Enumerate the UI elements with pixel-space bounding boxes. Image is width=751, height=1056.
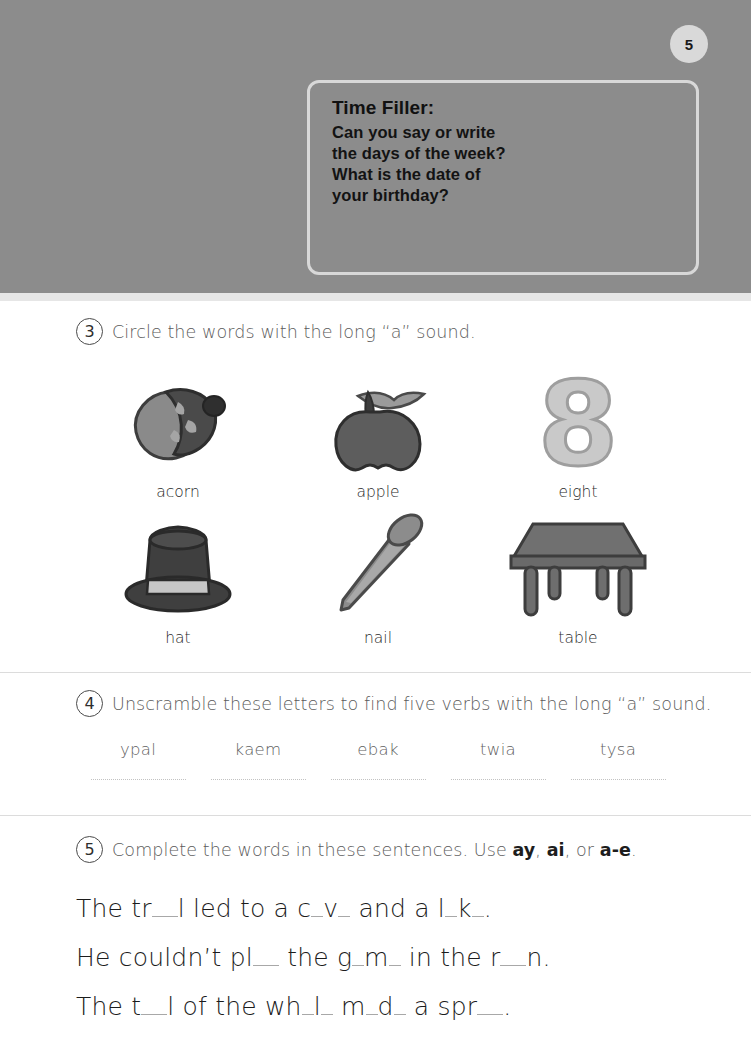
scramble-item-1: ypal bbox=[78, 740, 198, 780]
acorn-art bbox=[78, 355, 278, 476]
scramble-word-1: ypal bbox=[78, 740, 198, 759]
worksheet-page: 5 Time Filler: Can you say or write the … bbox=[0, 0, 751, 1056]
scramble-words-row: ypal kaem ebak twia tysa bbox=[78, 740, 678, 780]
sentence-1-blank-1[interactable] bbox=[152, 916, 178, 917]
section-divider-1 bbox=[0, 672, 751, 673]
sentence-3-part-7: . bbox=[503, 992, 511, 1021]
sentence-3-blank-5[interactable] bbox=[394, 1014, 406, 1015]
section-divider-2 bbox=[0, 815, 751, 816]
scramble-word-3: ebak bbox=[318, 740, 438, 759]
picture-item-eight[interactable]: 8 eight bbox=[478, 355, 678, 501]
number-eight-icon: 8 bbox=[528, 368, 628, 476]
scramble-word-4: twia bbox=[438, 740, 558, 759]
picture-label-nail: nail bbox=[364, 629, 392, 647]
sentence-1-part-5: k bbox=[457, 894, 472, 923]
sentence-2-part-2: the g bbox=[279, 943, 352, 972]
question-4-section: 4 Unscramble these letters to find five … bbox=[0, 690, 751, 717]
sentence-1[interactable]: The trl led to a cv and a lk. bbox=[76, 884, 736, 933]
picture-label-table: table bbox=[558, 629, 597, 647]
sentence-3-blank-2[interactable] bbox=[302, 1014, 314, 1015]
answer-line-5[interactable] bbox=[571, 779, 666, 780]
sentence-2[interactable]: He couldn’t pl the gm in the rn. bbox=[76, 933, 736, 982]
scramble-item-4: twia bbox=[438, 740, 558, 780]
sentence-3[interactable]: The tl of the whl md a spr. bbox=[76, 982, 736, 1031]
table-art bbox=[478, 501, 678, 622]
sentence-1-blank-3[interactable] bbox=[338, 916, 350, 917]
sentence-1-part-1: The tr bbox=[76, 894, 152, 923]
sentence-3-blank-3[interactable] bbox=[321, 1014, 333, 1015]
question-3-section: 3 Circle the words with the long “a” sou… bbox=[0, 318, 751, 345]
sentence-3-part-5: d bbox=[378, 992, 394, 1021]
page-number-badge: 5 bbox=[670, 25, 708, 63]
question-3-number: 3 bbox=[76, 318, 103, 345]
question-5-instruction: Complete the words in these sentences. U… bbox=[112, 840, 637, 860]
apple-art bbox=[278, 355, 478, 476]
answer-line-3[interactable] bbox=[331, 779, 426, 780]
sentence-3-blank-4[interactable] bbox=[366, 1014, 378, 1015]
sentence-3-part-1: The t bbox=[76, 992, 141, 1021]
picture-item-apple[interactable]: apple bbox=[278, 355, 478, 501]
sentence-2-blank-4[interactable] bbox=[500, 965, 526, 966]
table-icon bbox=[503, 510, 653, 622]
sentence-3-part-3: l bbox=[314, 992, 321, 1021]
picture-label-apple: apple bbox=[356, 483, 399, 501]
sentence-2-blank-1[interactable] bbox=[253, 965, 279, 966]
header-band: 5 Time Filler: Can you say or write the … bbox=[0, 0, 751, 293]
question-5-section: 5 Complete the words in these sentences.… bbox=[0, 836, 751, 863]
picture-grid: acorn apple 8 eight bbox=[78, 355, 678, 647]
scramble-item-3: ebak bbox=[318, 740, 438, 780]
sentence-1-part-6: . bbox=[484, 894, 492, 923]
sentence-2-part-1: He couldn’t pl bbox=[76, 943, 253, 972]
answer-line-2[interactable] bbox=[211, 779, 306, 780]
sentence-3-blank-1[interactable] bbox=[141, 1014, 167, 1015]
sentence-1-part-2: l led to a c bbox=[178, 894, 312, 923]
question-4-number: 4 bbox=[76, 690, 103, 717]
apple-icon bbox=[322, 372, 434, 476]
picture-item-table[interactable]: table bbox=[478, 501, 678, 647]
q5-separator-2: , or bbox=[565, 840, 600, 860]
picture-item-nail[interactable]: nail bbox=[278, 501, 478, 647]
picture-row-1: acorn apple 8 eight bbox=[78, 355, 678, 501]
scramble-word-2: kaem bbox=[198, 740, 318, 759]
time-filler-title: Time Filler: bbox=[332, 97, 696, 119]
sentence-3-part-2: l of the wh bbox=[167, 992, 301, 1021]
nail-icon bbox=[323, 510, 433, 622]
sentence-1-part-3: v bbox=[323, 894, 338, 923]
svg-text:8: 8 bbox=[538, 368, 619, 476]
sentence-3-part-6: a spr bbox=[406, 992, 478, 1021]
nail-art bbox=[278, 501, 478, 622]
picture-label-eight: eight bbox=[558, 483, 597, 501]
time-filler-line-2: the days of the week? bbox=[332, 143, 696, 164]
question-3-instruction: Circle the words with the long “a” sound… bbox=[112, 322, 476, 342]
sentence-2-blank-2[interactable] bbox=[352, 965, 364, 966]
q5-option-ay: ay bbox=[512, 840, 535, 860]
sentence-2-part-4: in the r bbox=[401, 943, 501, 972]
sentence-3-blank-6[interactable] bbox=[477, 1014, 503, 1015]
scramble-item-2: kaem bbox=[198, 740, 318, 780]
sentence-2-blank-3[interactable] bbox=[389, 965, 401, 966]
question-4-instruction: Unscramble these letters to find five ve… bbox=[112, 694, 711, 714]
scramble-word-5: tysa bbox=[558, 740, 678, 759]
time-filler-box: Time Filler: Can you say or write the da… bbox=[307, 80, 699, 275]
sentence-1-blank-2[interactable] bbox=[311, 916, 323, 917]
time-filler-line-3: What is the date of bbox=[332, 164, 696, 185]
answer-line-1[interactable] bbox=[91, 779, 186, 780]
picture-item-hat[interactable]: hat bbox=[78, 501, 278, 647]
time-filler-line-4: your birthday? bbox=[332, 185, 696, 206]
hat-art bbox=[78, 501, 278, 622]
sentence-2-part-5: n. bbox=[526, 943, 550, 972]
picture-label-hat: hat bbox=[165, 629, 190, 647]
question-4-header: 4 Unscramble these letters to find five … bbox=[76, 690, 751, 717]
question-3-header: 3 Circle the words with the long “a” sou… bbox=[76, 318, 751, 345]
sentence-1-blank-5[interactable] bbox=[472, 916, 484, 917]
picture-label-acorn: acorn bbox=[156, 483, 199, 501]
picture-item-acorn[interactable]: acorn bbox=[78, 355, 278, 501]
sentence-1-blank-4[interactable] bbox=[445, 916, 457, 917]
sentences-block: The trl led to a cv and a lk. He couldn’… bbox=[76, 884, 736, 1031]
eight-art: 8 bbox=[478, 355, 678, 476]
answer-line-4[interactable] bbox=[451, 779, 546, 780]
question-5-header: 5 Complete the words in these sentences.… bbox=[76, 836, 751, 863]
time-filler-line-1: Can you say or write bbox=[332, 122, 696, 143]
q5-option-ai: ai bbox=[547, 840, 565, 860]
q5-instruction-pre: Complete the words in these sentences. U… bbox=[112, 840, 512, 860]
